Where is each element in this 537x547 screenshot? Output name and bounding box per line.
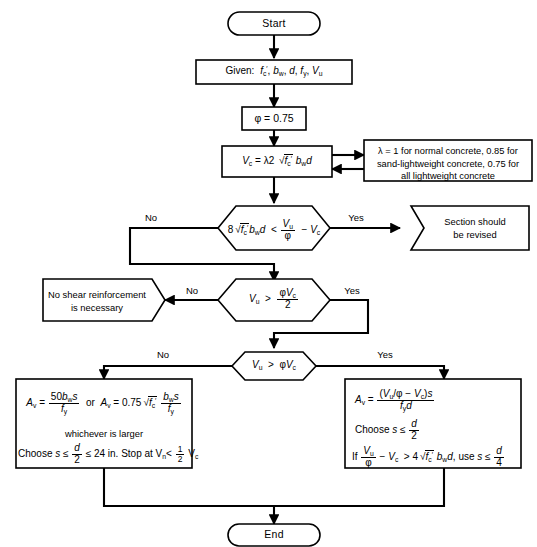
node-start xyxy=(228,12,320,35)
flowchart-diagram: Start End Given: fc′, bw, d, fy, Vu φ = … xyxy=(0,0,537,547)
node-given xyxy=(196,60,352,84)
node-phi xyxy=(242,107,306,130)
connector-minshear-to-end xyxy=(104,468,274,506)
connector-decision3-no xyxy=(104,366,232,379)
node-decision3 xyxy=(232,352,316,380)
connector-calcshear-to-end xyxy=(274,468,444,506)
node-section-revised xyxy=(411,206,529,250)
node-decision1 xyxy=(218,206,330,250)
node-end xyxy=(228,524,320,546)
node-no-shear xyxy=(43,279,165,321)
node-vc xyxy=(222,146,332,177)
flowchart-canvas xyxy=(0,0,537,547)
node-decision2 xyxy=(218,279,330,321)
node-lambda-note xyxy=(364,140,532,181)
connector-decision3-yes xyxy=(316,366,444,379)
node-calc-shear xyxy=(345,379,521,468)
node-min-shear xyxy=(16,379,192,468)
